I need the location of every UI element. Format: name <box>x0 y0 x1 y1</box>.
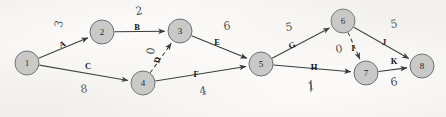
edge-weight-j: 5 <box>390 17 399 31</box>
edge-label-a: A <box>57 38 67 50</box>
node-5[interactable]: 5 <box>249 52 273 76</box>
node-6[interactable]: 6 <box>331 9 355 33</box>
edge-g-5-to-6[interactable] <box>272 28 329 58</box>
edge-label-k: K <box>391 56 398 66</box>
edge-weight-k: 6 <box>390 75 399 89</box>
edge-weight-f: 4 <box>199 84 208 98</box>
edge-f-4-to-5[interactable] <box>155 66 246 81</box>
edge-weight-a: 3 <box>52 19 66 29</box>
edge-label-d: D <box>151 56 162 65</box>
edge-weight-g: 5 <box>285 20 294 34</box>
edge-weight-h: 1 <box>307 79 316 93</box>
edge-weight-i: 0 <box>335 42 344 56</box>
node-3-label: 3 <box>178 26 183 36</box>
node-7[interactable]: 7 <box>354 61 378 85</box>
node-3[interactable]: 3 <box>168 19 192 43</box>
edge-weight-d: 0 <box>144 47 158 56</box>
node-8-label: 8 <box>420 61 425 71</box>
edge-label-e: E <box>214 37 220 47</box>
node-7-label: 7 <box>364 68 369 78</box>
edge-label-c: C <box>85 61 91 71</box>
node-6-label: 6 <box>341 16 346 26</box>
edge-weight-c: 8 <box>80 82 89 96</box>
node-2[interactable]: 2 <box>90 20 114 44</box>
node-8[interactable]: 8 <box>410 54 434 78</box>
edge-label-f: F <box>193 69 198 79</box>
graph-diagram-canvas: 12345678 A3B2C8D0E6F4G5H1I0J5K6 <box>0 0 446 117</box>
edge-c-1-to-4[interactable] <box>39 65 128 80</box>
edge-weight-b: 2 <box>135 4 144 18</box>
edge-k-7-to-8[interactable] <box>378 68 407 72</box>
node-2-label: 2 <box>100 27 105 37</box>
node-4[interactable]: 4 <box>131 71 155 95</box>
graph-svg: 12345678 A3B2C8D0E6F4G5H1I0J5K6 <box>0 0 446 117</box>
edge-label-b: B <box>134 22 140 32</box>
edge-label-h: H <box>311 62 318 72</box>
node-1-label: 1 <box>25 58 30 68</box>
node-5-label: 5 <box>259 59 264 69</box>
node-4-label: 4 <box>141 78 146 88</box>
node-1[interactable]: 1 <box>15 51 39 75</box>
edge-weight-e: 6 <box>223 19 232 33</box>
